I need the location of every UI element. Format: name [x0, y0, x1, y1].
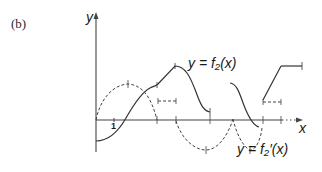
x-tick-label: 1 — [111, 121, 116, 131]
y-axis-arrow-icon — [94, 12, 99, 19]
x-axis-label: x — [299, 120, 306, 136]
curve-f2 — [96, 62, 302, 141]
curve-label-f2-derivative: y = f₂′(x) — [237, 141, 288, 157]
y-axis-label: y — [86, 9, 93, 25]
y-axis — [94, 12, 99, 152]
figure: (b) — [0, 0, 322, 172]
curve-label-f2: y = f₂(x) — [188, 55, 237, 71]
